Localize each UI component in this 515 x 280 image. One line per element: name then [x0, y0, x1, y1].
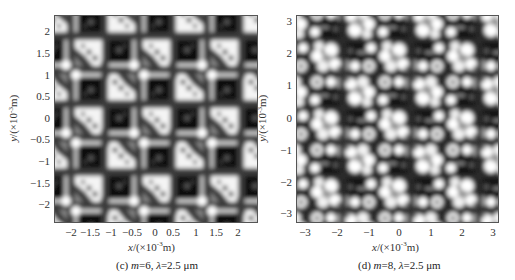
- ytick-c: 2: [24, 26, 50, 37]
- caption-c: (c) m=6, λ=2.5 μm: [116, 259, 198, 271]
- caption-d: (d) m=8, λ=2.5 μm: [358, 259, 441, 271]
- xlabel-d: x/(×10-3m): [372, 240, 419, 253]
- ytick-c: −2: [24, 199, 50, 210]
- ytick-d: 3: [266, 16, 292, 27]
- xtick-c: 2: [223, 227, 253, 238]
- ytick-c: 1.5: [24, 48, 50, 59]
- ytick-c: 0: [24, 113, 50, 124]
- xlabel-c: x/(×10-3m): [128, 240, 175, 253]
- xtick-d: 0: [384, 227, 414, 238]
- xtick-d: −1: [354, 227, 384, 238]
- xtick-d: −2: [322, 227, 352, 238]
- ytick-d: −3: [266, 208, 292, 219]
- ytick-d: −1: [266, 145, 292, 156]
- ytick-d: 2: [266, 48, 292, 59]
- ytick-c: −1: [24, 156, 50, 167]
- ytick-c: 0.5: [24, 91, 50, 102]
- ytick-c: −1.5: [24, 178, 50, 189]
- xtick-d: −3: [290, 227, 320, 238]
- ytick-c: −0.5: [24, 134, 50, 145]
- intensity-image-d: [297, 16, 499, 223]
- xtick-d: 3: [478, 227, 508, 238]
- ytick-d: 0: [266, 113, 292, 124]
- intensity-image-c: [55, 16, 258, 223]
- ytick-c: 1: [24, 70, 50, 81]
- ytick-d: −2: [266, 177, 292, 188]
- ylabel-d: y/(×10-3m): [256, 83, 269, 153]
- intensity-map-c: [54, 15, 258, 223]
- ytick-d: 1: [266, 80, 292, 91]
- intensity-map-d: [296, 15, 499, 223]
- xtick-d: 2: [447, 227, 477, 238]
- xtick-d: 1: [416, 227, 446, 238]
- ylabel-c: y/(×10-3m): [7, 83, 20, 153]
